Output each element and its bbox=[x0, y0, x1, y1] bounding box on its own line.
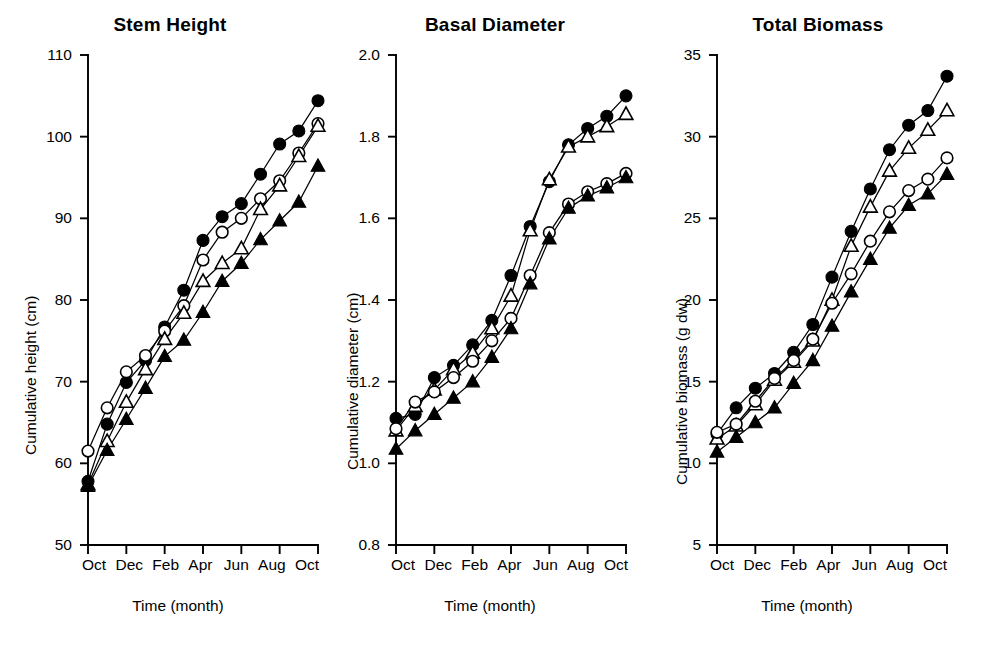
x-tick-label: Apr bbox=[497, 556, 521, 573]
data-point-open-circle bbox=[903, 185, 915, 197]
data-point-filled-triangle bbox=[806, 353, 820, 365]
y-tick-label: 1.4 bbox=[358, 291, 380, 308]
data-point-open-triangle bbox=[844, 239, 858, 251]
data-point-open-circle bbox=[769, 373, 781, 385]
data-point-open-circle bbox=[197, 254, 209, 266]
data-point-open-circle bbox=[845, 268, 857, 280]
data-point-filled-triangle bbox=[710, 445, 724, 457]
x-tick-label: Feb bbox=[461, 556, 488, 573]
series-markers-filled-circle bbox=[711, 70, 953, 440]
data-point-open-circle bbox=[448, 372, 460, 384]
y-tick-label: 0.8 bbox=[358, 536, 380, 553]
data-point-filled-circle bbox=[826, 271, 838, 283]
axis-spines bbox=[88, 55, 318, 545]
data-point-filled-triangle bbox=[902, 198, 916, 210]
data-point-open-circle bbox=[486, 335, 498, 347]
plot-area-stem-height: 5060708090100110 bbox=[0, 0, 340, 645]
x-tick-label: Oct bbox=[295, 556, 319, 573]
x-axis-label-total-biomass: Time (month) bbox=[657, 597, 957, 615]
data-point-open-triangle bbox=[119, 395, 133, 407]
data-point-filled-circle bbox=[922, 105, 934, 117]
x-tick-label: Oct bbox=[391, 556, 415, 573]
y-tick-label: 2.0 bbox=[358, 46, 380, 63]
x-tick-label: Aug bbox=[886, 556, 914, 573]
data-point-filled-triangle bbox=[729, 430, 743, 442]
data-point-open-triangle bbox=[504, 289, 518, 301]
data-point-open-circle bbox=[941, 152, 953, 164]
data-point-open-triangle bbox=[600, 119, 614, 131]
data-point-filled-circle bbox=[903, 119, 915, 131]
panel-stem-height: Stem Height Cumulative height (cm) 50607… bbox=[0, 0, 340, 645]
series-markers-filled-triangle bbox=[81, 159, 325, 492]
x-tick-label: Aug bbox=[258, 556, 286, 573]
x-tick-label: Dec bbox=[424, 556, 452, 573]
data-point-open-circle bbox=[121, 366, 133, 378]
data-point-open-circle bbox=[826, 297, 838, 309]
data-point-filled-triangle bbox=[119, 412, 133, 424]
data-point-open-circle bbox=[711, 427, 723, 439]
data-point-filled-triangle bbox=[292, 195, 306, 207]
series-line-filled-circle bbox=[396, 96, 626, 419]
data-point-filled-circle bbox=[101, 418, 113, 430]
data-point-open-circle bbox=[788, 355, 800, 367]
data-point-filled-circle bbox=[941, 70, 953, 82]
data-point-filled-triangle bbox=[158, 349, 172, 361]
data-point-filled-circle bbox=[274, 138, 286, 150]
y-tick-label: 1.0 bbox=[358, 454, 380, 471]
data-point-filled-triangle bbox=[408, 423, 422, 435]
y-tick-label: 20 bbox=[684, 291, 702, 308]
data-point-open-triangle bbox=[619, 107, 633, 119]
data-point-filled-triangle bbox=[139, 381, 153, 393]
data-point-open-circle bbox=[467, 355, 479, 367]
x-tick-label: Dec bbox=[115, 556, 143, 573]
data-point-filled-circle bbox=[620, 90, 632, 102]
data-point-open-circle bbox=[409, 396, 421, 408]
y-tick-label: 1.6 bbox=[358, 209, 380, 226]
y-tick-label: 15 bbox=[684, 373, 701, 390]
data-point-filled-circle bbox=[197, 234, 209, 246]
y-tick-label: 1.8 bbox=[358, 128, 380, 145]
data-point-open-circle bbox=[140, 350, 152, 362]
x-tick-labels-stem-height: Oct Dec Feb Apr Jun Aug Oct bbox=[82, 556, 319, 574]
data-point-open-circle bbox=[750, 395, 762, 407]
x-tick-labels-total-biomass: Oct Dec Feb Apr Jun Aug Oct bbox=[710, 556, 947, 574]
data-point-filled-circle bbox=[884, 144, 896, 156]
data-point-open-triangle bbox=[940, 103, 954, 115]
y-tick-label: 110 bbox=[47, 46, 72, 63]
x-tick-label: Aug bbox=[567, 556, 595, 573]
data-point-filled-circle bbox=[730, 402, 742, 414]
data-point-open-triangle bbox=[863, 200, 877, 212]
x-tick-label: Apr bbox=[816, 556, 840, 573]
data-point-open-triangle bbox=[234, 241, 248, 253]
x-axis-label-basal-diameter: Time (month) bbox=[340, 597, 640, 615]
data-point-filled-triangle bbox=[825, 319, 839, 331]
panel-total-biomass: Total Biomass Cumulative biomass (g dw) … bbox=[655, 0, 997, 645]
figure-three-panel-growth-curves: Stem Height Cumulative height (cm) 50607… bbox=[0, 0, 997, 645]
data-point-open-circle bbox=[101, 402, 113, 414]
data-point-open-circle bbox=[82, 445, 94, 457]
series-line-filled-triangle bbox=[88, 166, 318, 486]
data-point-filled-circle bbox=[864, 183, 876, 195]
y-tick-label: 30 bbox=[684, 128, 702, 145]
y-tick-label: 100 bbox=[46, 128, 72, 145]
y-tick-label: 70 bbox=[55, 373, 73, 390]
data-point-filled-triangle bbox=[844, 285, 858, 297]
data-point-filled-triangle bbox=[748, 415, 762, 427]
x-tick-label: Oct bbox=[82, 556, 106, 573]
y-tick-label: 90 bbox=[55, 209, 73, 226]
data-point-filled-circle bbox=[749, 382, 761, 394]
x-tick-label: Jun bbox=[533, 556, 558, 573]
data-point-filled-triangle bbox=[447, 391, 461, 403]
series-markers-filled-circle bbox=[82, 95, 324, 488]
data-point-open-circle bbox=[922, 173, 934, 185]
data-point-filled-triangle bbox=[485, 350, 499, 362]
data-point-filled-circle bbox=[216, 211, 228, 223]
data-point-open-circle bbox=[216, 226, 228, 238]
data-point-filled-circle bbox=[178, 284, 190, 296]
data-point-filled-circle bbox=[845, 225, 857, 237]
x-tick-label: Dec bbox=[743, 556, 771, 573]
series-markers-filled-circle bbox=[390, 90, 632, 425]
data-point-open-circle bbox=[807, 333, 819, 345]
data-point-filled-triangle bbox=[863, 252, 877, 264]
y-tick-label: 60 bbox=[55, 454, 73, 471]
